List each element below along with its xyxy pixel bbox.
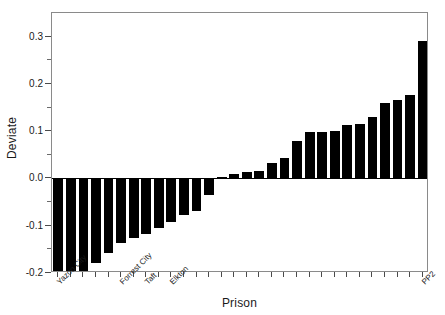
y-tick-label: 0.3 [10, 30, 43, 41]
x-tick-mark [82, 272, 83, 277]
x-tick-mark [283, 272, 284, 277]
bar [204, 178, 214, 195]
x-tick-mark [221, 272, 222, 277]
y-axis-title-text: Deviate [5, 116, 19, 158]
x-tick-mark [384, 272, 385, 277]
bar [393, 100, 403, 179]
bar [53, 178, 63, 272]
bar [267, 163, 277, 179]
x-tick-mark [296, 272, 297, 277]
x-tick-mark [321, 272, 322, 277]
y-axis-title: Deviate [2, 0, 22, 275]
bar [179, 178, 189, 215]
x-tick-mark [309, 272, 310, 277]
x-tick-mark [208, 272, 209, 277]
x-tick-mark [409, 272, 410, 277]
bar [355, 124, 365, 178]
y-tick-label: 0.2 [10, 77, 43, 88]
x-tick-mark [346, 272, 347, 277]
bar [116, 178, 126, 243]
bar [229, 174, 239, 178]
bar [254, 171, 264, 179]
x-tick-mark [271, 272, 272, 277]
bar [192, 178, 202, 210]
bar [129, 178, 139, 238]
x-tick-mark [233, 272, 234, 277]
y-tick-label: 0.0 [10, 172, 43, 183]
bar [217, 177, 227, 178]
x-tick-mark [258, 272, 259, 277]
x-tick-mark [246, 272, 247, 277]
bar [418, 41, 428, 178]
x-tick-mark [371, 272, 372, 277]
x-tick-mark [334, 272, 335, 277]
bar [166, 178, 176, 222]
bar [91, 178, 101, 262]
bar [305, 132, 315, 178]
y-tick-label: -0.2 [10, 267, 43, 278]
y-tick-label: 0.1 [10, 125, 43, 136]
bar-chart-figure: Deviate 0.30.20.10.0-0.1-0.2 Yazoo CityF… [0, 0, 445, 315]
bar [380, 103, 390, 179]
plot-area [51, 12, 428, 272]
y-tick-mark [45, 272, 51, 273]
bar [280, 158, 290, 178]
bar [405, 95, 415, 179]
bar [141, 178, 151, 234]
x-axis-title: Prison [51, 296, 428, 310]
bar [317, 132, 327, 178]
y-tick-label: -0.1 [10, 219, 43, 230]
x-tick-mark [108, 272, 109, 277]
x-tick-mark [359, 272, 360, 277]
bar [368, 117, 378, 178]
x-tick-mark [196, 272, 197, 277]
bar [292, 141, 302, 179]
bar [242, 172, 252, 178]
x-tick-mark [95, 272, 96, 277]
bar [66, 178, 76, 270]
bar [104, 178, 114, 252]
x-tick-mark [397, 272, 398, 277]
bar [154, 178, 164, 227]
bar [330, 131, 340, 178]
bar [342, 125, 352, 178]
